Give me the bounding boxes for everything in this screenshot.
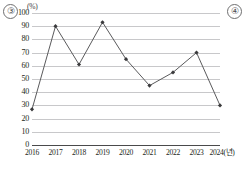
- y-axis-tick: 20: [22, 115, 29, 123]
- x-axis-tick: 2023: [190, 149, 204, 157]
- data-series: [32, 13, 220, 145]
- y-axis-tick: 100: [18, 9, 29, 17]
- x-axis-tick: 2022: [166, 149, 180, 157]
- question-number-3: ③: [3, 4, 18, 19]
- x-axis-tick: 2017: [49, 149, 63, 157]
- y-axis-tick: 80: [22, 35, 29, 43]
- y-axis-tick: 60: [22, 62, 29, 70]
- series-line: [32, 22, 220, 109]
- y-axis-tick: 30: [22, 101, 29, 109]
- x-axis-tick: 2021: [143, 149, 157, 157]
- y-axis-tick: 90: [22, 22, 29, 30]
- question-number-4: ④: [227, 4, 242, 19]
- data-point-marker: [218, 103, 222, 107]
- x-axis-tick: 2018: [72, 149, 86, 157]
- y-axis-tick: 50: [22, 75, 29, 83]
- x-axis-tick: 2020: [119, 149, 133, 157]
- y-axis-tick: 40: [22, 88, 29, 96]
- line-chart: 0102030405060708090100 20162017201820192…: [32, 13, 220, 145]
- y-axis-tick: 10: [22, 128, 29, 136]
- y-axis-tick: 70: [22, 49, 29, 57]
- x-axis-tick: 2016: [25, 149, 39, 157]
- x-axis-tick: 2019: [96, 149, 110, 157]
- x-axis-tick: 2024(년): [209, 149, 234, 157]
- data-point-marker: [30, 107, 34, 111]
- axis-baseline: [32, 145, 220, 146]
